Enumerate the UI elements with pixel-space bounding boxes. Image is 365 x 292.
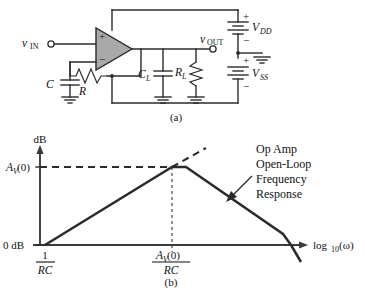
annotation-line-3: Frequency: [256, 172, 307, 186]
input-label-subscript: IN: [30, 42, 39, 51]
resistor-r-label: R: [78, 85, 86, 97]
open-loop-asymptote-dashed-line: [172, 148, 206, 167]
annotation-line-1: Op Amp: [256, 142, 297, 156]
x-axis-label: log 10 (ω): [313, 239, 354, 254]
x-tick-label-1-over-rc: 1 RC: [36, 249, 55, 276]
circuit-panel: v IN + − R C: [22, 10, 272, 124]
input-terminal: [48, 41, 54, 47]
x-axis-label-base: log: [313, 239, 328, 251]
x-tick1-numerator: 1: [42, 249, 48, 261]
ground-supply-mid: [254, 57, 270, 63]
opamp-plus-label: +: [99, 30, 105, 42]
annotation-arrow-line: [231, 176, 252, 197]
y-axis-arrowhead: [36, 145, 43, 154]
x-axis-arrowhead: [299, 241, 308, 248]
x-tick2-denominator: RC: [163, 264, 179, 276]
input-label: v: [22, 37, 28, 49]
resistor-r: [70, 69, 107, 83]
annotation-op-amp-response: Op Amp Open-Loop Frequency Response: [256, 142, 311, 201]
vdd-minus-sign: −: [243, 34, 249, 46]
output-label: v: [200, 33, 206, 45]
supply-vss-subscript: SS: [260, 73, 268, 82]
x-tick1-denominator: RC: [37, 264, 53, 276]
wire-inverting-input-leg: [70, 62, 96, 76]
feedback-node-dot: [110, 74, 114, 78]
x-axis-label-subscript: 10: [331, 245, 339, 254]
resistor-rl: [190, 62, 202, 86]
supply-mid-node-dot: [236, 51, 240, 55]
vss-plus-sign: +: [243, 54, 249, 66]
capacitor-cl-label: C: [138, 68, 146, 80]
vdd-plus-sign: +: [243, 10, 249, 22]
y-tick-label-0db: 0 dB: [3, 239, 24, 251]
resistor-rl-subscript: L: [181, 72, 187, 81]
capacitor-cl-subscript: L: [145, 74, 151, 83]
ground-cl: [155, 97, 171, 103]
capacitor-c-label: C: [46, 78, 54, 90]
annotation-line-4: Response: [256, 187, 302, 201]
x-axis-label-arg: (ω): [339, 239, 354, 252]
ground-c: [62, 97, 78, 103]
figure-root: v IN + − R C: [0, 0, 365, 292]
y-tick-av0-tail: (0): [17, 161, 30, 174]
output-label-subscript: OUT: [207, 38, 224, 47]
x-tick-label-av0-over-rc: A V (0) RC: [152, 249, 190, 276]
ground-rl: [188, 97, 204, 103]
vss-minus-sign: −: [243, 80, 249, 92]
figure-svg: v IN + − R C: [0, 0, 365, 292]
y-tick-label-av0: A V (0): [5, 161, 30, 176]
opamp-minus-label: −: [99, 53, 105, 65]
resistor-rl-label: R: [174, 66, 182, 78]
caption-panel-a: (a): [170, 111, 183, 124]
x-tick2-numerator-tail: (0): [167, 249, 180, 262]
y-axis-title: dB: [34, 133, 47, 145]
supply-vdd-subscript: DD: [259, 27, 272, 36]
annotation-line-2: Open-Loop: [256, 157, 311, 171]
bode-plot-panel: dB A V (0) 0 dB 1 RC A V (0): [3, 133, 354, 289]
caption-panel-b: (b): [165, 276, 178, 289]
